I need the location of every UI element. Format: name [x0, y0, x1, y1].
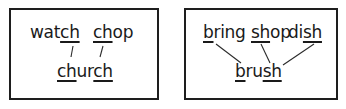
- word-text: ru: [246, 61, 263, 81]
- word-text: di: [288, 22, 303, 42]
- underlined-letter: b: [203, 22, 214, 42]
- word-church: church: [57, 62, 113, 80]
- underlined-letter: b: [235, 61, 246, 81]
- word-shop: shop: [251, 23, 291, 41]
- word-text: ur: [77, 61, 94, 81]
- word-watch: watch: [30, 23, 80, 41]
- underlined-digraph: ch: [57, 61, 77, 81]
- underlined-digraph: ch: [60, 22, 80, 42]
- word-text: wat: [30, 22, 60, 42]
- word-chop: chop: [93, 23, 133, 41]
- underlined-digraph: sh: [251, 22, 270, 42]
- word-dish: dish: [288, 23, 322, 41]
- word-text: op: [113, 22, 134, 42]
- word-text: ring: [214, 22, 246, 42]
- underlined-digraph: sh: [303, 22, 322, 42]
- word-bring: bring: [203, 23, 246, 41]
- underlined-digraph: sh: [263, 61, 282, 81]
- underlined-digraph: ch: [93, 22, 113, 42]
- underlined-digraph: ch: [93, 61, 113, 81]
- word-brush: brush: [235, 62, 282, 80]
